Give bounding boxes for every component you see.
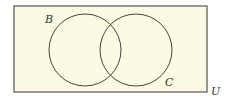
universe-label: U (211, 85, 221, 98)
venn-diagram: B C U (0, 0, 231, 101)
universe-rectangle (14, 6, 207, 92)
set-c-label: C (165, 76, 174, 89)
set-b-label: B (44, 13, 53, 26)
